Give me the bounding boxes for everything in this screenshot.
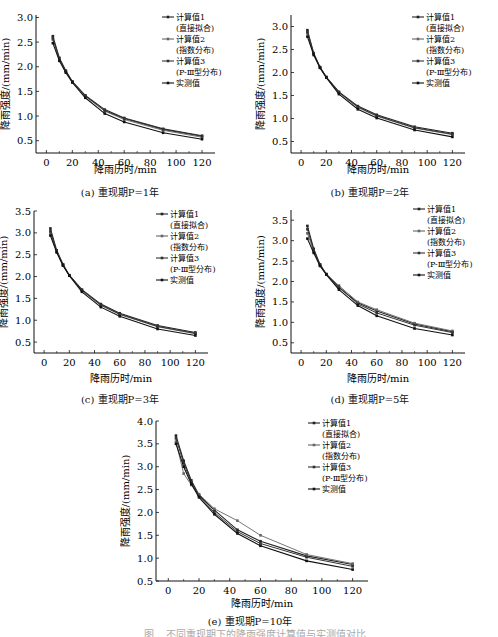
x-tick-label: 20: [66, 157, 79, 168]
data-point: [312, 54, 315, 57]
data-point: [236, 532, 239, 535]
x-tick-label: 100: [418, 357, 437, 368]
data-point: [62, 264, 65, 267]
data-point: [259, 542, 262, 545]
y-tick-label: 3.0: [15, 227, 31, 238]
data-point: [259, 545, 262, 548]
data-point: [175, 434, 178, 437]
chart-e: 0.51.01.52.02.53.03.54.0020406080100120降…: [110, 410, 390, 615]
data-point: [357, 304, 360, 307]
legend-label: 计算值3: [426, 56, 455, 66]
y-tick-label: 3.0: [272, 235, 288, 246]
chart-c: 0.51.01.52.02.53.03.5020406080100120降雨历时…: [0, 200, 250, 400]
data-point: [65, 71, 68, 74]
y-axis-label: 降雨强度/(mm/min): [0, 38, 11, 131]
y-tick-label: 1.5: [272, 296, 288, 307]
y-tick-label: 1.5: [272, 90, 288, 101]
legend-sublabel: (直接拟合): [322, 429, 360, 439]
data-point: [236, 519, 239, 522]
legend-sublabel: (指数分布): [170, 242, 208, 252]
data-point: [123, 117, 126, 120]
chart-b: 0.51.01.52.02.53.0020406080100120降雨历时/mi…: [250, 0, 498, 200]
data-point: [213, 513, 216, 516]
data-point: [338, 288, 341, 291]
chart-panel-e: 0.51.01.52.02.53.03.54.0020406080100120降…: [110, 410, 390, 619]
y-tick-label: 2.5: [272, 44, 288, 55]
y-tick-label: 2.5: [15, 249, 31, 260]
x-tick-label: 60: [370, 357, 383, 368]
data-point: [451, 136, 454, 139]
y-tick-label: 3.5: [272, 215, 288, 226]
data-point: [451, 133, 454, 136]
legend-label: 实测值: [176, 78, 200, 88]
data-point: [49, 230, 52, 233]
legend-label: 计算值1: [426, 12, 455, 22]
legend-label: 计算值2: [176, 34, 205, 44]
legend-label: 计算值2: [427, 226, 456, 236]
x-tick-label: 80: [396, 357, 409, 368]
y-tick-label: 2.5: [272, 256, 288, 267]
legend-sublabel: (P-Ⅲ型分布): [426, 67, 472, 77]
x-tick-label: 120: [443, 157, 462, 168]
legend-label: 计算值2: [426, 34, 455, 44]
data-point: [319, 265, 322, 268]
data-point: [71, 81, 74, 84]
caption-b: (b) 重现期P=2年: [290, 184, 450, 199]
x-axis-label: 降雨历时/min: [231, 597, 294, 609]
data-point: [319, 67, 322, 70]
data-point: [52, 42, 55, 45]
data-point: [103, 109, 106, 112]
x-tick-label: 60: [254, 585, 267, 596]
data-point: [156, 328, 159, 331]
legend: 计算值1(直接拟合)计算值2(指数分布)计算值3(P-Ⅲ型分布)实测值: [308, 418, 368, 494]
figure-caption: 图... 不同重现期下的降雨强度计算值与实测值对比: [95, 626, 415, 637]
legend: 计算值1(直接拟合)计算值2(指数分布)计算值3(P-Ⅲ型分布)实测值: [156, 209, 216, 285]
data-point: [156, 325, 159, 328]
data-point: [52, 37, 55, 40]
chart-panel-b: 0.51.01.52.02.53.0020406080100120降雨历时/mi…: [250, 0, 498, 204]
data-point: [325, 273, 328, 276]
x-tick-label: 0: [41, 357, 47, 368]
y-tick-label: 2.0: [272, 67, 288, 78]
legend: 计算值1(直接拟合)计算值2(指数分布)计算值3(P-Ⅲ型分布)实测值: [162, 12, 222, 88]
y-tick-label: 3.5: [15, 206, 31, 217]
y-tick-label: 1.0: [272, 113, 288, 124]
data-point: [375, 308, 378, 311]
data-point: [375, 114, 378, 117]
data-point: [305, 560, 308, 563]
y-tick-label: 1.0: [272, 317, 288, 328]
data-point: [49, 234, 52, 237]
data-point: [118, 315, 121, 318]
data-point: [201, 135, 204, 138]
y-tick-label: 2.0: [272, 276, 288, 287]
x-tick-label: 0: [165, 585, 171, 596]
caption-a: (a) 重现期P=1年: [40, 184, 200, 199]
data-point: [123, 121, 126, 124]
x-tick-label: 0: [298, 157, 304, 168]
legend: 计算值1(直接拟合)计算值2(指数分布)计算值3(P-Ⅲ型分布)实测值: [412, 12, 472, 88]
legend-sublabel: (指数分布): [322, 451, 360, 461]
x-tick-label: 120: [443, 357, 462, 368]
data-point: [81, 291, 84, 294]
x-tick-label: 0: [43, 157, 49, 168]
legend-label: 计算值1: [176, 12, 205, 22]
data-point: [58, 60, 61, 63]
data-point: [306, 31, 309, 34]
x-tick-label: 40: [345, 357, 358, 368]
x-axis-label: 降雨历时/min: [90, 372, 153, 384]
data-point: [305, 553, 308, 556]
y-tick-label: 1.5: [137, 530, 153, 541]
y-tick-label: 1.0: [137, 553, 153, 564]
x-tick-label: 60: [113, 357, 126, 368]
data-point: [175, 443, 178, 446]
chart-a: 0.51.01.52.02.53.0020406080100120降雨历时/mi…: [0, 0, 250, 200]
x-tick-label: 80: [285, 585, 298, 596]
x-tick-label: 120: [186, 357, 205, 368]
y-tick-label: 1.0: [15, 315, 31, 326]
data-point: [198, 496, 201, 499]
legend-label: 计算值1: [427, 204, 456, 214]
legend-label: 计算值1: [170, 209, 199, 219]
caption-c: (c) 重现期P=3年: [40, 391, 200, 406]
legend-sublabel: (直接拟合): [426, 23, 464, 33]
x-tick-label: 40: [223, 585, 236, 596]
